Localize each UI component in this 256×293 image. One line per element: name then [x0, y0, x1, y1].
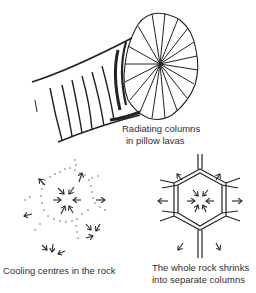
caption-radiating-columns: Radiating columns in pillow lavas [122, 123, 200, 146]
caption-line: Cooling centres in the rock [3, 265, 115, 277]
caption-shrinking-columns: The whole rock shrinks into separate col… [152, 262, 249, 285]
outward-arrows [24, 173, 105, 238]
caption-line: into separate columns [152, 274, 249, 286]
cooling-centres-drawing [24, 159, 106, 254]
caption-line: The whole rock shrinks [152, 262, 249, 274]
caption-line: in pillow lavas [122, 135, 200, 147]
pillow-lava-illustration [0, 0, 256, 293]
shrinking-columns-drawing [158, 154, 242, 258]
inward-arrows [53, 187, 81, 214]
dotted-boundary [24, 159, 105, 238]
inward-arrows-secondary [42, 224, 100, 254]
radiating-columns-drawing [124, 13, 198, 119]
caption-line: Radiating columns [122, 123, 200, 135]
caption-cooling-centres: Cooling centres in the rock [3, 265, 115, 277]
